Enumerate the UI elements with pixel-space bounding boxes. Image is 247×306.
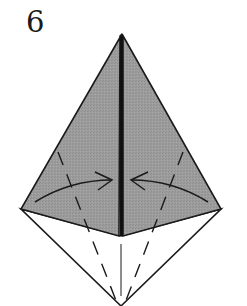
- origami-diagram: [0, 0, 247, 306]
- gray-right-flap: [122, 34, 221, 236]
- gray-left-flap: [21, 34, 122, 236]
